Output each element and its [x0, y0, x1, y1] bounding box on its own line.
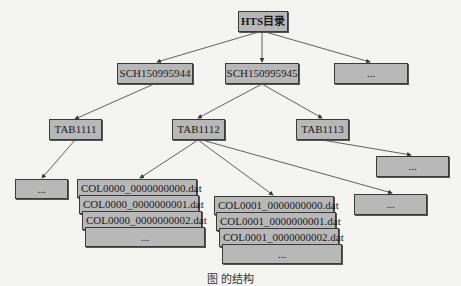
tab1111-more-node: ...: [15, 179, 68, 199]
table-node-tab1112: TAB1112: [172, 119, 225, 140]
table-node-tab1113: TAB1113: [296, 119, 349, 140]
schema-node-more: ...: [334, 63, 408, 84]
schema-node-sch150995944: SCH150995944: [117, 63, 193, 84]
figure-caption: 图 的结构: [0, 270, 461, 286]
tab1113-more-node: ...: [376, 156, 449, 177]
root-node-hts-directory: HTS目录: [238, 11, 288, 32]
col0000-more-node: ...: [85, 227, 205, 247]
tab1112-more-node: ...: [354, 194, 427, 215]
table-node-tab1111: TAB1111: [49, 119, 102, 140]
col0001-more-node: ...: [222, 244, 342, 264]
schema-node-sch150995945: SCH150995945: [225, 63, 299, 84]
